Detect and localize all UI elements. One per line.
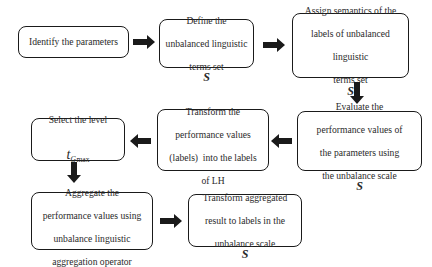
arrow-left-icon xyxy=(271,134,292,148)
node-label-line: (labels) into the labels xyxy=(169,152,256,163)
arrow-right-icon xyxy=(263,38,285,52)
node-aggregate-performance: Aggregate the performance values using u… xyxy=(31,192,153,250)
node-label-line: Transform the xyxy=(186,106,240,117)
node-label-line: performance values of xyxy=(317,124,403,135)
node-label-line: the parameters using xyxy=(320,147,399,158)
node-transform-to-lh: Transform the performance values (labels… xyxy=(157,109,269,171)
node-label: Identify the parameters xyxy=(29,36,118,48)
node-label-line: result to labels in the xyxy=(205,215,285,226)
math-t-gmax: tG max xyxy=(67,150,90,161)
node-label-line: unbalance linguistic xyxy=(53,233,130,244)
symbol-s: S xyxy=(356,179,363,193)
node-label-line: Aggregate the xyxy=(65,187,119,198)
node-evaluate-performance: Evaluate the performance values of the p… xyxy=(297,111,422,171)
arrow-right-icon xyxy=(133,35,155,49)
symbol-s: S xyxy=(242,247,249,261)
node-define-terms-set: Define the unbalanced linguistic terms s… xyxy=(159,19,254,68)
node-label-line: Transform aggregated xyxy=(203,192,288,203)
node-label-line: Select the level xyxy=(49,114,108,125)
node-select-level: Select the level tG max xyxy=(31,118,125,161)
arrow-right-icon xyxy=(160,214,182,228)
node-label-line: Assign semantics of the xyxy=(305,5,396,16)
node-label-line: unbalanced linguistic xyxy=(166,38,248,49)
node-label-line: performance values using xyxy=(43,210,142,221)
symbol-s: S xyxy=(203,70,210,84)
arrow-left-icon xyxy=(130,134,151,148)
node-label-line: aggregation operator xyxy=(52,256,132,267)
node-identify-parameters: Identify the parameters xyxy=(18,26,129,58)
node-label-line: Evaluate the xyxy=(336,101,384,112)
node-label-line: Define the xyxy=(186,15,226,26)
node-label-line: performance values xyxy=(175,129,250,140)
node-assign-semantics: Assign semantics of the labels of unbala… xyxy=(292,13,409,78)
node-label-line: labels of unbalanced xyxy=(311,28,390,39)
node-transform-aggregated: Transform aggregated result to labels in… xyxy=(188,194,302,247)
node-label-line: linguistic xyxy=(333,51,369,62)
